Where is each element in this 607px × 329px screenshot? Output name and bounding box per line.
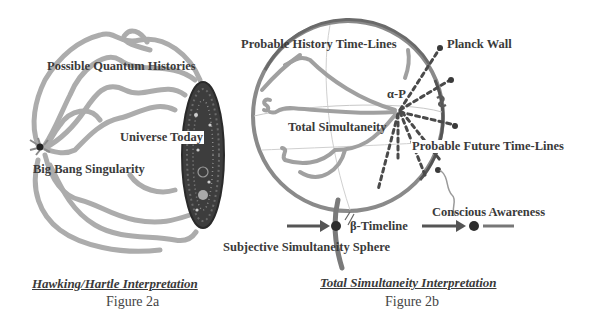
- label-big-bang-singularity: Big Bang Singularity: [33, 163, 145, 176]
- big-bang-singularity-dot: [37, 144, 44, 151]
- planck-wall-marks: [435, 45, 458, 173]
- label-possible-quantum-histories: Possible Quantum Histories: [47, 60, 196, 73]
- caption-title-figure-2b: Total Simultaneity Interpretation: [320, 276, 497, 289]
- label-probable-history-time-lines: Probable History Time-Lines: [241, 38, 397, 51]
- caption-title-figure-2a: Hawking/Hartle Interpretation: [32, 277, 198, 290]
- label-planck-wall: Planck Wall: [447, 38, 512, 51]
- caption-figure-2b: Figure 2b: [385, 295, 439, 309]
- label-beta-timeline: β-Timeline: [350, 220, 408, 233]
- caption-figure-2a: Figure 2a: [106, 295, 159, 309]
- label-alpha-p: α-P: [387, 88, 406, 101]
- label-total-simultaneity: Total Simultaneity: [288, 121, 387, 134]
- universe-today-ellipse: [182, 82, 224, 228]
- label-subjective-simultaneity-sphere: Subjective Simultaneity Sphere: [223, 241, 390, 254]
- label-conscious-awareness: Conscious Awareness: [432, 206, 545, 219]
- label-probable-future-time-lines: Probable Future Time-Lines: [411, 140, 565, 153]
- label-universe-today: Universe Today: [119, 131, 204, 144]
